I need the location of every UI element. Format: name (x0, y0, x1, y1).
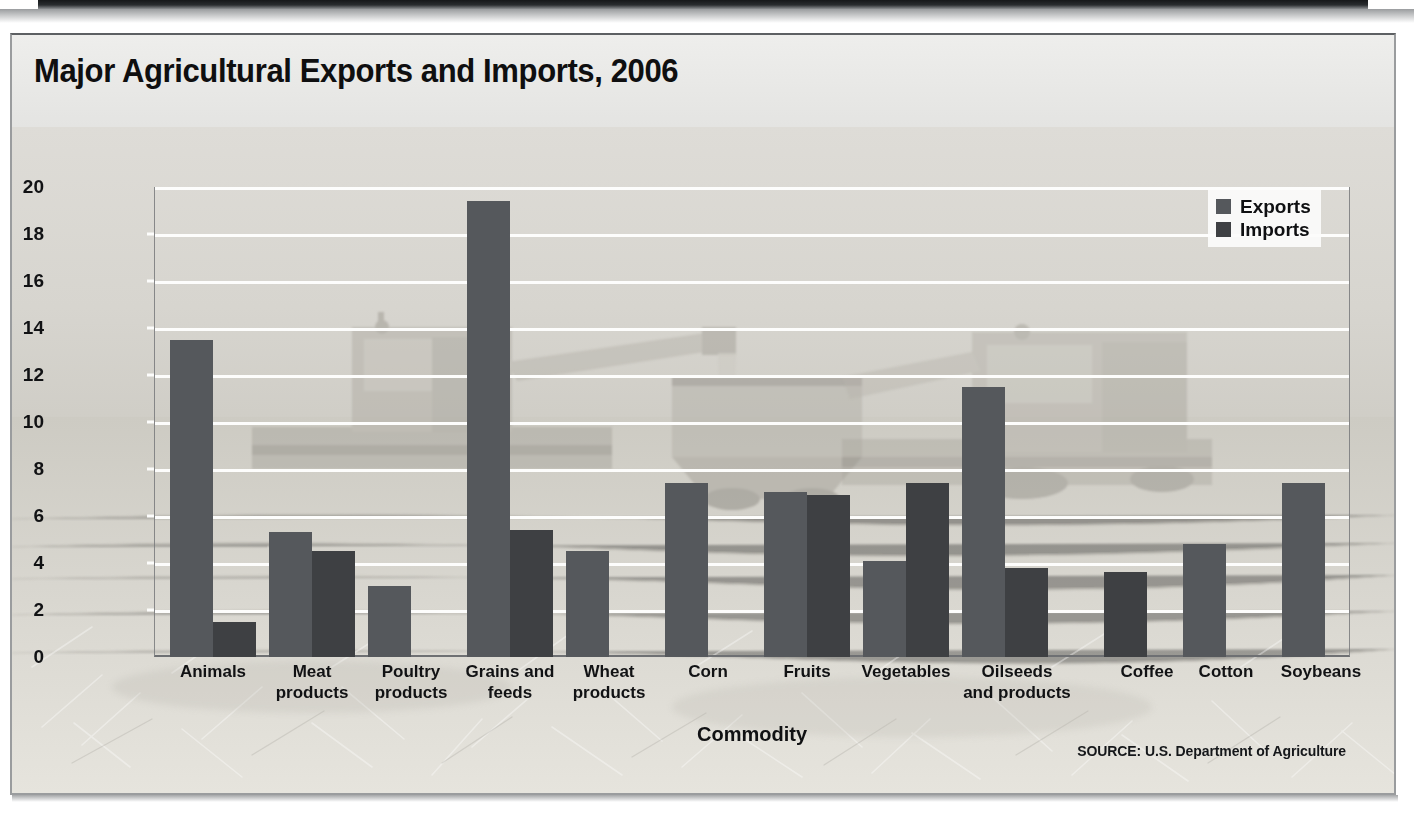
bar-imports-vegetables (906, 483, 949, 657)
y-tick-label: 0 (10, 646, 44, 668)
bar-exports-wheat-products (566, 551, 609, 657)
source-note: SOURCE: U.S. Department of Agriculture (1077, 743, 1346, 759)
y-tick-label: 2 (10, 599, 44, 621)
bar-exports-animals (170, 340, 213, 657)
y-tick-mark (147, 515, 154, 518)
bar-imports-grains-and-feeds (510, 530, 553, 657)
x-label-poultry-products: Poultry products (357, 661, 465, 703)
y-tick-label: 20 (10, 176, 44, 198)
legend-label-exports: Exports (1240, 196, 1311, 218)
y-tick-label: 4 (10, 552, 44, 574)
x-label-corn: Corn (654, 661, 762, 682)
bar-imports-oilseeds-and-products (1005, 568, 1048, 657)
y-tick-label: 6 (10, 505, 44, 527)
y-tick-label: 12 (10, 364, 44, 386)
x-label-meat-products: Meat products (258, 661, 366, 703)
y-tick-mark (147, 609, 154, 612)
x-label-wheat-products: Wheat products (555, 661, 663, 703)
bars-layer (154, 187, 1350, 657)
bar-exports-meat-products (269, 532, 312, 657)
bar-exports-poultry-products (368, 586, 411, 657)
bar-exports-corn (665, 483, 708, 657)
legend-label-imports: Imports (1240, 219, 1310, 241)
y-tick-mark (147, 327, 154, 330)
y-tick-label: 14 (10, 317, 44, 339)
y-tick-mark (147, 280, 154, 283)
chart-legend: Exports Imports (1208, 190, 1321, 247)
x-label-grains-and-feeds: Grains and feeds (450, 661, 570, 703)
legend-swatch-exports-icon (1216, 199, 1231, 214)
legend-item-exports: Exports (1216, 195, 1311, 218)
panel-shadow (12, 795, 1398, 802)
bar-exports-cotton (1183, 544, 1226, 657)
chart-header-band: Major Agricultural Exports and Imports, … (12, 35, 1394, 127)
bar-imports-fruits (807, 495, 850, 657)
y-tick-label: 8 (10, 458, 44, 480)
bar-exports-vegetables (863, 561, 906, 657)
bar-imports-meat-products (312, 551, 355, 657)
legend-swatch-imports-icon (1216, 222, 1231, 237)
page-title: Major Agricultural Exports and Imports, … (34, 52, 678, 90)
chart-page: Major Agricultural Exports and Imports, … (0, 0, 1414, 825)
y-tick-mark (147, 421, 154, 424)
y-tick-mark (147, 562, 154, 565)
y-tick-label: 16 (10, 270, 44, 292)
x-label-animals: Animals (159, 661, 267, 682)
y-tick-label: 10 (10, 411, 44, 433)
bar-exports-grains-and-feeds (467, 201, 510, 657)
y-tick-mark (147, 374, 154, 377)
x-label-oilseeds-and-products: Oilseeds and products (942, 661, 1092, 703)
bar-exports-oilseeds-and-products (962, 387, 1005, 657)
legend-item-imports: Imports (1216, 218, 1311, 241)
bar-imports-animals (213, 622, 256, 657)
x-label-fruits: Fruits (753, 661, 861, 682)
chart-panel: Major Agricultural Exports and Imports, … (10, 33, 1396, 795)
bar-imports-coffee (1104, 572, 1147, 657)
bar-exports-fruits (764, 492, 807, 657)
top-strip-shadow (0, 9, 1414, 23)
bar-exports-soybeans (1282, 483, 1325, 657)
y-tick-mark (147, 468, 154, 471)
x-axis-labels: Animals Meat products Poultry products G… (154, 661, 1350, 719)
x-label-soybeans: Soybeans (1261, 661, 1381, 682)
y-tick-mark (147, 233, 154, 236)
y-tick-label: 18 (10, 223, 44, 245)
top-decorative-strip (38, 0, 1368, 9)
